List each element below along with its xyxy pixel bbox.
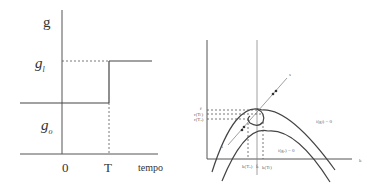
arrow-dot	[241, 129, 244, 132]
k-To-tick: k(Tₒ)	[242, 164, 252, 169]
label-text: g	[41, 117, 49, 133]
x-axis-label-tempo: tempo	[138, 162, 163, 173]
saddle-path	[228, 78, 287, 145]
k-axis-label: k	[359, 158, 362, 163]
tick-zero-label: 0	[62, 160, 69, 176]
tick-T-label: T	[104, 160, 112, 176]
arrow-dot	[272, 93, 275, 96]
curve-upper-label: i(gₗ) = 0	[316, 118, 332, 124]
level-high-label: gl	[35, 55, 45, 74]
label-text: g	[35, 55, 43, 71]
transition-loop	[248, 109, 264, 125]
level-low-label: go	[41, 117, 53, 136]
k-bar-tick: k̄	[256, 164, 259, 169]
path-start-label: s	[221, 144, 223, 149]
left-y-axis-label: g	[43, 14, 51, 31]
arrow-dot	[275, 90, 278, 93]
label-subscript: l	[43, 65, 45, 74]
k-Tl-tick: k(Tₗ)	[262, 164, 272, 170]
arrow-dot	[243, 126, 246, 129]
figure-canvas	[0, 0, 375, 196]
curve-lower-label: i(gₒ) = 0	[278, 148, 294, 153]
curve-lower	[222, 130, 330, 182]
label-subscript: o	[49, 127, 53, 136]
label-text: g	[43, 14, 51, 30]
ray-label: s	[289, 72, 291, 77]
r-To-tick: r(Tₒ)	[194, 117, 204, 122]
right-phase-diagram	[207, 40, 352, 182]
